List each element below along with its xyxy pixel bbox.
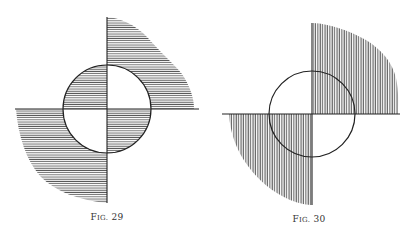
- fig30-top-right-region: [313, 23, 398, 114]
- fig30-caption-smallcaps: IG.: [299, 216, 310, 224]
- fig29-caption: FIG. 29: [90, 212, 123, 222]
- fig29-caption-smallcaps: IG.: [97, 214, 108, 222]
- fig30-bottom-left-region: [229, 114, 312, 205]
- figure-30: [222, 23, 400, 205]
- figure-29: [15, 17, 199, 203]
- fig30-caption-number: 30: [313, 214, 325, 224]
- fig30-caption: FIG. 30: [292, 214, 325, 224]
- fig29-inner-top-left-region: [63, 65, 107, 109]
- fig29-caption-number: 29: [111, 212, 123, 222]
- figures-canvas: [0, 0, 413, 235]
- fig29-inner-bottom-right-region: [107, 109, 151, 153]
